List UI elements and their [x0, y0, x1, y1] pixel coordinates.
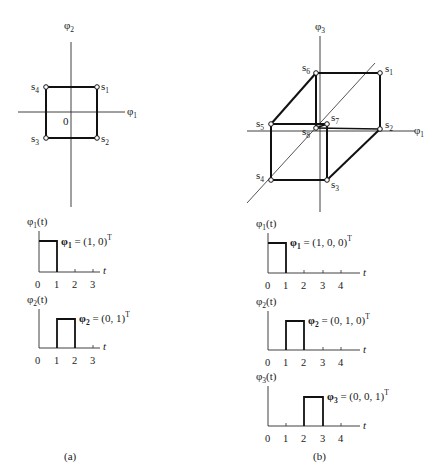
- t-axis-label: t: [103, 340, 107, 352]
- point-s7: [325, 122, 330, 127]
- vector-label: φ2 = (0, 1)T: [79, 310, 130, 327]
- svg-text:0: 0: [265, 433, 270, 444]
- pulse: [286, 321, 304, 350]
- waveform-ylabel: φ1(t): [256, 217, 277, 232]
- svg-text:1: 1: [283, 433, 288, 444]
- label-s6: s6: [302, 61, 310, 76]
- panel-b-waveform-phi3: φ3(t) t 0 1 2 3 4 φ3 = (0, 0, 1)T: [256, 370, 389, 444]
- vector-label: φ3 = (0, 0, 1)T: [327, 388, 389, 405]
- svg-text:4: 4: [338, 357, 344, 368]
- point-s3: [44, 136, 49, 141]
- phi3-axis-label: φ3: [315, 20, 325, 35]
- label-s4: s4: [31, 80, 39, 95]
- vector-label: φ1 = (1, 0)T: [61, 233, 112, 250]
- phi2-axis-label: φ2: [64, 19, 74, 34]
- point-s1: [378, 71, 383, 76]
- point-s2: [95, 136, 100, 141]
- t-axis-label: t: [363, 419, 367, 431]
- label-s7: s7: [331, 111, 339, 126]
- point-s5: [269, 122, 274, 127]
- panel-b-signal-space: φ3 φ1 s1 s2 s3 s4 s5 s6 s7 s8: [247, 20, 424, 212]
- point-s2: [378, 127, 383, 132]
- svg-text:2: 2: [301, 280, 306, 291]
- svg-text:3: 3: [320, 280, 325, 291]
- waveform-ylabel: φ3(t): [256, 370, 277, 385]
- svg-text:1: 1: [283, 280, 288, 291]
- t-axis-label: t: [363, 266, 367, 278]
- label-s1: s1: [385, 62, 393, 77]
- svg-text:4: 4: [338, 433, 344, 444]
- label-s3: s3: [331, 178, 339, 193]
- svg-text:0: 0: [265, 280, 270, 291]
- label-s5: s5: [256, 117, 264, 132]
- svg-text:2: 2: [72, 355, 77, 366]
- phi1-axis-label: φ1: [414, 124, 424, 139]
- svg-text:1: 1: [54, 355, 59, 366]
- point-s8: [314, 126, 319, 131]
- label-s8: s8: [302, 125, 310, 140]
- label-s3: s3: [31, 132, 39, 147]
- svg-text:3: 3: [90, 355, 95, 366]
- label-s2: s2: [101, 132, 109, 147]
- phi1-axis-label: φ1: [127, 105, 137, 120]
- svg-text:3: 3: [320, 433, 325, 444]
- pulse: [304, 397, 323, 426]
- svg-text:1: 1: [54, 279, 59, 290]
- waveform-ylabel: φ2(t): [256, 295, 277, 310]
- t-axis-label: t: [363, 343, 367, 355]
- panel-b-waveform-phi2: φ2(t) t 0 1 2 3 4 φ2 = (0, 1, 0)T: [256, 295, 370, 368]
- panel-a-waveform-phi1: φ1(t) t 0 1 2 3 φ1 = (1, 0)T: [27, 215, 112, 290]
- svg-text:3: 3: [320, 357, 325, 368]
- svg-text:1: 1: [283, 357, 288, 368]
- point-s6: [314, 71, 319, 76]
- pulse: [39, 241, 57, 272]
- caption-b: (b): [313, 450, 326, 463]
- svg-text:3: 3: [90, 279, 95, 290]
- point-s1: [95, 85, 100, 90]
- svg-text:2: 2: [301, 433, 306, 444]
- point-s4: [269, 178, 274, 183]
- svg-text:0: 0: [265, 357, 270, 368]
- point-s4: [44, 85, 49, 90]
- svg-text:0: 0: [35, 355, 40, 366]
- label-s4: s4: [256, 169, 264, 184]
- panel-a-waveform-phi2: φ2(t) t 0 1 2 3 φ2 = (0, 1)T: [27, 293, 130, 366]
- panel-b-waveform-phi1: φ1(t) t 0 1 2 3 4 φ1 = (1, 0, 0)T: [256, 217, 367, 291]
- label-s1: s1: [101, 80, 109, 95]
- waveform-ylabel: φ1(t): [27, 215, 48, 230]
- waveform-ylabel: φ2(t): [27, 293, 48, 308]
- svg-text:2: 2: [72, 279, 77, 290]
- vector-label: φ1 = (1, 0, 0)T: [290, 234, 352, 251]
- pulse: [57, 319, 75, 348]
- svg-text:0: 0: [35, 279, 40, 290]
- t-axis-label: t: [103, 264, 107, 276]
- vector-label: φ2 = (0, 1, 0)T: [308, 312, 370, 329]
- caption-a: (a): [64, 450, 77, 463]
- svg-text:4: 4: [338, 280, 344, 291]
- phi2-axis: [247, 63, 375, 203]
- panel-a-signal-space: φ2 φ1 0 s1 s2 s3 s4: [18, 19, 137, 207]
- point-s3: [325, 178, 330, 183]
- svg-text:2: 2: [301, 357, 306, 368]
- square-constellation: [46, 87, 97, 138]
- figure-canvas: φ2 φ1 0 s1 s2 s3 s4 φ1(t) t 0 1 2 3 φ1 =…: [0, 0, 438, 474]
- pulse: [268, 243, 286, 273]
- origin-label: 0: [63, 115, 69, 127]
